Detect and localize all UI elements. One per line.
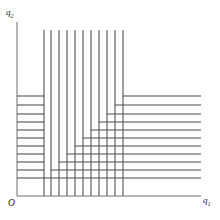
indifference-map-figure: q2 q1 O	[0, 0, 220, 220]
left-horizontal-arms-group	[17, 96, 44, 178]
y-axis-label-subscript: 2	[11, 13, 14, 19]
indifference-curve	[107, 30, 201, 114]
indifference-curve	[75, 30, 201, 146]
indifference-curve	[115, 30, 201, 105]
plot-canvas	[0, 0, 220, 220]
y-axis-label: q2	[6, 8, 14, 19]
origin-label: O	[8, 199, 15, 209]
x-axis-label-subscript: 1	[208, 201, 211, 207]
indifference-curve	[123, 30, 201, 96]
indifference-curve	[67, 30, 201, 154]
indifference-curve	[99, 30, 201, 122]
indifference-curve	[51, 30, 201, 170]
x-axis-label: q1	[203, 196, 211, 207]
